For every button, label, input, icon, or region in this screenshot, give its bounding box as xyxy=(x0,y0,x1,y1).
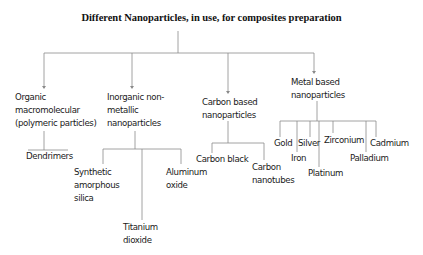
category-label-line: nanoparticles xyxy=(202,109,257,122)
item-platinum: Platinum xyxy=(308,167,343,180)
category-metal-based: Metal based nanoparticles xyxy=(291,76,345,102)
item-label-line: Titanium xyxy=(123,221,158,234)
nanoparticle-classification-diagram: Different Nanoparticles, in use, for com… xyxy=(0,0,423,255)
item-palladium: Palladium xyxy=(350,152,389,165)
item-label-line: Synthetic xyxy=(74,166,119,179)
item-iron: Iron xyxy=(291,152,306,165)
category-organic-macromolecular: Organic macromolecular (polymeric partic… xyxy=(15,91,96,131)
item-gold: Gold xyxy=(274,137,292,150)
category-carbon-based: Carbon based nanoparticles xyxy=(202,96,257,122)
item-label-line: oxide xyxy=(166,179,207,192)
category-label-line: macromolecular xyxy=(15,104,96,117)
item-zirconium: Zirconium xyxy=(324,134,364,147)
item-synthetic-amorphous-silica: Synthetic amorphous silica xyxy=(74,166,119,206)
item-dendrimers: Dendrimers xyxy=(26,150,73,163)
item-carbon-nanotubes: Carbon nanotubes xyxy=(252,161,294,187)
category-inorganic-non-metallic: Inorganic non- metallic nanoparticles xyxy=(107,91,164,131)
item-aluminum-oxide: Aluminum oxide xyxy=(166,166,207,192)
item-label-line: nanotubes xyxy=(252,174,294,187)
item-titanium-dioxide: Titanium dioxide xyxy=(123,221,158,247)
item-carbon-black: Carbon black xyxy=(196,153,248,166)
category-label-line: Metal based xyxy=(291,76,345,89)
category-label-line: (polymeric particles) xyxy=(15,117,96,130)
category-label-line: Organic xyxy=(15,91,96,104)
category-label-line: nanoparticles xyxy=(291,89,345,102)
category-label-line: Inorganic non- xyxy=(107,91,164,104)
item-label-line: silica xyxy=(74,192,119,205)
item-label-line: Carbon xyxy=(252,161,294,174)
item-label-line: Aluminum xyxy=(166,166,207,179)
category-label-line: metallic xyxy=(107,104,164,117)
item-silver: Silver xyxy=(298,137,320,150)
category-label-line: nanoparticles xyxy=(107,117,164,130)
category-label-line: Carbon based xyxy=(202,96,257,109)
diagram-title: Different Nanoparticles, in use, for com… xyxy=(0,12,423,23)
item-label-line: Carbon black xyxy=(196,153,248,166)
item-label-line: dioxide xyxy=(123,234,158,247)
item-label-line: amorphous xyxy=(74,179,119,192)
item-cadmium: Cadmium xyxy=(370,137,409,150)
